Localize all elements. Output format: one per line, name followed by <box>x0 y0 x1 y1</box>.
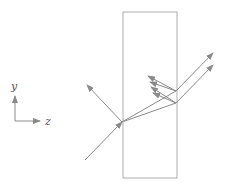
exit-ray-1 <box>176 53 213 91</box>
internal-reflection-4 <box>153 93 176 103</box>
reflected-ray <box>87 85 122 122</box>
coordinate-axes <box>15 96 40 121</box>
exit-ray-2 <box>176 65 213 103</box>
internal-reflection-2 <box>150 82 176 91</box>
incident-ray <box>85 122 122 160</box>
refracted-ray-1 <box>122 91 176 122</box>
internal-reflection-1 <box>148 76 176 91</box>
refracted-ray-2 <box>122 103 176 122</box>
diagram-canvas <box>0 0 226 185</box>
z-axis-label: z <box>45 115 51 128</box>
y-axis-label: y <box>11 80 17 93</box>
